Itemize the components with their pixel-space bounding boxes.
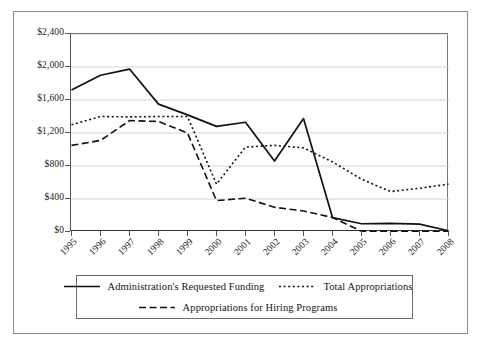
x-tick-label: 2002 (261, 237, 281, 257)
legend-entry-hiring-programs: Appropriations for Hiring Programs (138, 302, 352, 313)
legend-swatch-dotted-icon (278, 282, 316, 291)
x-tick-label: 2007 (406, 237, 426, 257)
legend-label-requested-funding: Administration's Requested Funding (101, 281, 279, 292)
x-tick-label: 2001 (232, 237, 252, 257)
x-tick-label: 1998 (145, 237, 165, 257)
x-tick-label: 1999 (174, 237, 194, 257)
x-tick-label: 2000 (203, 237, 223, 257)
x-tick-label: 1996 (87, 237, 107, 257)
x-tick-label: 1997 (116, 237, 136, 257)
x-tick-label: 2005 (348, 237, 368, 257)
legend-label-hiring-programs: Appropriations for Hiring Programs (176, 302, 352, 313)
chart-figure: $0$400$800$1,200$1,600$2,000$2,400 19951… (0, 0, 483, 349)
legend-label-total-appropriations: Total Appropriations (316, 281, 426, 292)
legend-entry-requested-funding: Administration's Requested Funding (63, 281, 279, 292)
legend-swatch-dashed-icon (138, 303, 176, 312)
legend-entry-total-appropriations: Total Appropriations (278, 281, 426, 292)
legend-swatch-solid-icon (63, 282, 101, 291)
legend-row-secondary: Appropriations for Hiring Programs (77, 297, 412, 318)
x-tick-label: 2003 (290, 237, 310, 257)
legend-row-primary: Administration's Requested Funding Total… (77, 276, 412, 297)
x-tick-label: 2008 (435, 237, 455, 257)
x-tick-label: 2004 (319, 237, 339, 257)
chart-legend: Administration's Requested Funding Total… (76, 275, 413, 319)
x-tick-label: 2006 (377, 237, 397, 257)
x-tick-label: 1995 (58, 237, 78, 257)
